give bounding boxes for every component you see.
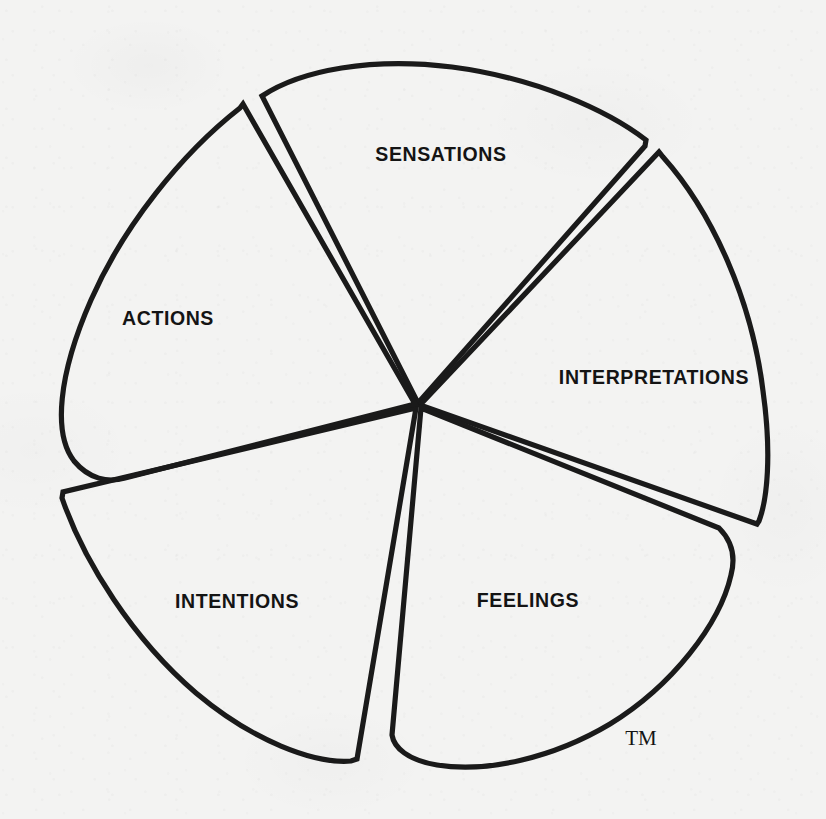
petal-intentions-label: INTENTIONS (175, 590, 299, 612)
petal-actions-label: ACTIONS (122, 307, 214, 329)
petal-sensations-label: SENSATIONS (375, 143, 506, 165)
petal-feelings[interactable]: FEELINGS (392, 408, 733, 767)
petal-interpretations-label: INTERPRETATIONS (559, 366, 749, 388)
petal-feelings-label: FEELINGS (477, 589, 579, 611)
petal-intentions[interactable]: INTENTIONS (62, 408, 416, 761)
trademark-symbol: TM (625, 726, 657, 750)
five-petal-wheel-diagram: SENSATIONS INTERPRETATIONS FEELINGS INTE… (0, 0, 826, 819)
petal-intentions-outline (62, 408, 416, 761)
diagram-canvas: SENSATIONS INTERPRETATIONS FEELINGS INTE… (0, 0, 826, 819)
petal-feelings-outline (392, 408, 733, 767)
